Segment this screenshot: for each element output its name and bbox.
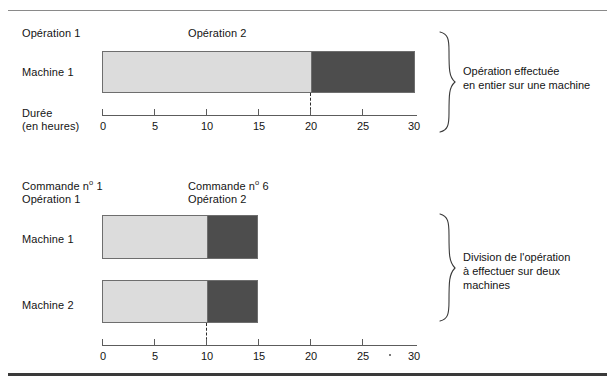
bottom-header-right-operation: Opération 2 <box>188 193 247 206</box>
top-axis-label-0: 0 <box>100 120 106 132</box>
top-brace-icon <box>436 31 456 134</box>
bottom-header-left-commande-number: 1 <box>93 180 102 192</box>
bottom-annotation-line-1: Division de l'opération <box>463 250 570 264</box>
bottom-header-left-operation: Opération 1 <box>22 193 81 206</box>
bottom-bar-1-segment-operation-2 <box>207 216 257 258</box>
top-header-operation-2: Opération 2 <box>188 27 247 40</box>
top-axis-tick-5 <box>154 109 155 116</box>
top-bar-segment-operation-1 <box>103 52 311 92</box>
top-axis-tick-0 <box>102 109 103 116</box>
top-axis-line <box>102 115 417 116</box>
bottom-axis-speck <box>389 354 391 356</box>
bottom-brace-icon <box>436 213 456 323</box>
bottom-bar-2-segment-operation-1 <box>103 281 207 322</box>
bottom-axis-tick-15 <box>258 339 259 346</box>
top-axis-label-10: 10 <box>201 120 213 132</box>
top-axis-tick-15 <box>258 109 259 116</box>
bottom-axis-label-0: 0 <box>100 350 106 362</box>
bottom-annotation-line-3: machines <box>463 278 510 292</box>
bottom-axis-tick-10 <box>206 339 207 346</box>
top-axis-label-20: 20 <box>305 120 317 132</box>
bottom-header-right-commande-number: 6 <box>259 180 268 192</box>
bottom-axis-label-30: 30 <box>408 350 420 362</box>
top-header-operation-1: Opération 1 <box>22 27 81 40</box>
top-axis-label-25: 25 <box>357 120 369 132</box>
top-axis-label-30: 30 <box>408 120 420 132</box>
top-annotation-line-2: en entier sur une machine <box>463 78 590 92</box>
bottom-axis-line <box>102 345 417 346</box>
bottom-axis-label-5: 5 <box>152 350 158 362</box>
bottom-axis-tick-20 <box>310 339 311 346</box>
bottom-axis-tick-0 <box>102 339 103 346</box>
bottom-row-label-machine-1: Machine 1 <box>22 233 74 246</box>
top-row-label-machine-1: Machine 1 <box>22 66 74 79</box>
bottom-divider-rule <box>8 373 607 376</box>
bottom-row-label-machine-2: Machine 2 <box>22 299 74 312</box>
bottom-axis-tick-5 <box>154 339 155 346</box>
top-axis-tick-25 <box>362 109 363 116</box>
bottom-header-left-commande: Commande no 1 <box>22 180 103 193</box>
bottom-annotation-line-2: à effectuer sur deux <box>463 264 560 278</box>
bottom-header-right-commande-text: Commande n <box>188 180 255 192</box>
top-axis-tick-20 <box>310 109 311 116</box>
top-bar-machine-1 <box>102 51 415 93</box>
top-bar-segment-operation-2 <box>311 52 414 92</box>
gantt-figure: Opération 1 Opération 2 Machine 1 Durée … <box>0 0 615 389</box>
bottom-axis-label-10: 10 <box>201 350 213 362</box>
top-axis-caption-line-1: Durée <box>22 107 52 120</box>
bottom-bar-1-segment-operation-1 <box>103 216 207 258</box>
bottom-header-left-commande-text: Commande n <box>22 180 89 192</box>
top-axis-label-15: 15 <box>253 120 265 132</box>
top-axis-tick-10 <box>206 109 207 116</box>
top-axis-label-5: 5 <box>152 120 158 132</box>
bottom-bar-machine-1 <box>102 215 258 259</box>
bottom-axis-label-15: 15 <box>253 350 265 362</box>
bottom-axis-label-20: 20 <box>305 350 317 362</box>
top-annotation-line-1: Opération effectuée <box>463 64 559 78</box>
bottom-bar-2-segment-operation-2 <box>207 281 257 322</box>
bottom-axis-label-25: 25 <box>357 350 369 362</box>
bottom-axis-tick-25 <box>362 339 363 346</box>
top-divider-rule <box>8 10 607 11</box>
bottom-header-right-commande: Commande no 6 <box>188 180 269 193</box>
bottom-bar-machine-2 <box>102 280 258 323</box>
top-axis-caption-line-2: (en heures) <box>22 120 79 133</box>
